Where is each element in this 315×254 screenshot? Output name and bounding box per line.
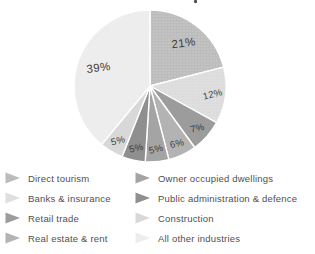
legend-item-real-estate-rent: Real estate & rent (5, 231, 108, 245)
legend: Direct tourismBanks & insuranceRetail tr… (0, 168, 315, 254)
legend-arrow-icon (5, 192, 21, 204)
legend-item-banks-insurance: Banks & insurance (5, 191, 111, 205)
legend-item-owner-occupied-dwellings: Owner occupied dwellings (135, 171, 273, 185)
legend-label: Direct tourism (28, 173, 89, 184)
legend-arrow-icon (5, 232, 21, 244)
pie-slices-group (74, 10, 226, 162)
legend-arrow-icon (135, 232, 151, 244)
pie-chart: 21%12%7%6%5%5%5%39% (0, 0, 315, 168)
legend-item-direct-tourism: Direct tourism (5, 171, 89, 185)
legend-label: Real estate & rent (28, 233, 108, 244)
legend-label: Banks & insurance (28, 193, 111, 204)
legend-item-retail-trade: Retail trade (5, 211, 79, 225)
legend-label: Public administration & defence (158, 193, 297, 204)
legend-item-construction: Construction (135, 211, 214, 225)
legend-label: Construction (158, 213, 214, 224)
legend-label: Owner occupied dwellings (158, 173, 273, 184)
chart-canvas: 21%12%7%6%5%5%5%39% Direct tourismBanks … (0, 0, 315, 254)
legend-label: Retail trade (28, 213, 79, 224)
legend-arrow-icon (5, 212, 21, 224)
legend-label: All other industries (158, 233, 240, 244)
legend-item-all-other-industries: All other industries (135, 231, 240, 245)
legend-item-public-administration-defence: Public administration & defence (135, 191, 297, 205)
legend-arrow-icon (135, 172, 151, 184)
legend-arrow-icon (135, 212, 151, 224)
legend-arrow-icon (5, 172, 21, 184)
legend-arrow-icon (135, 192, 151, 204)
